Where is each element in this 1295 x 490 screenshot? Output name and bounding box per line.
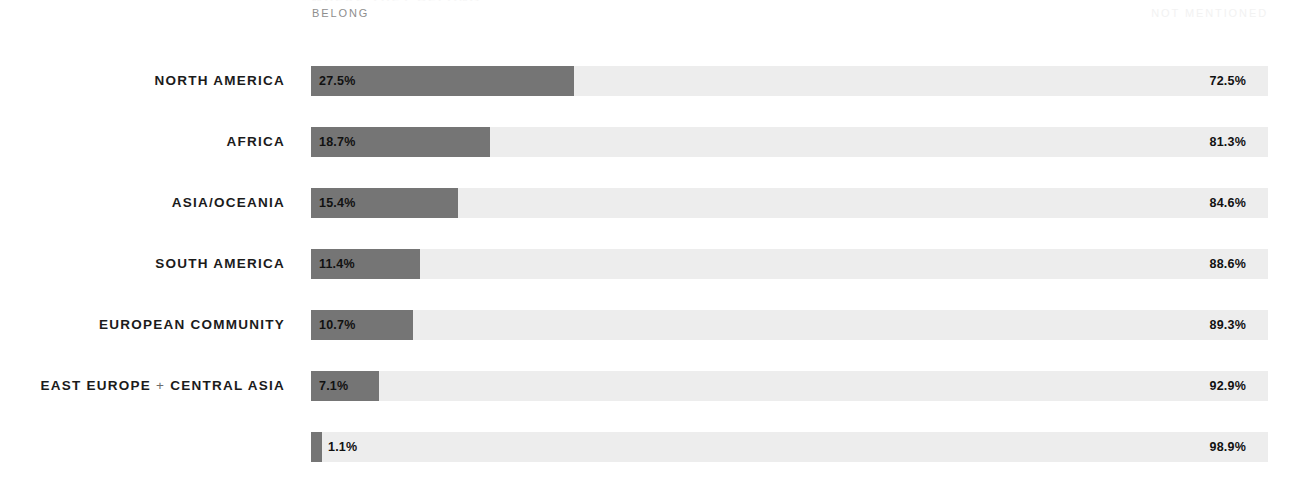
not-mentioned-value-label: 72.5% — [1210, 74, 1246, 88]
belong-value-label: 15.4% — [319, 196, 355, 210]
belong-value-label: 7.1% — [319, 379, 348, 393]
stacked-bar-chart: WHERE THEY BELONG BELONG NOT MENTIONED N… — [0, 0, 1295, 490]
not-mentioned-value-label: 88.6% — [1210, 257, 1246, 271]
not-mentioned-value-label: 81.3% — [1210, 135, 1246, 149]
belong-value-label: 27.5% — [319, 74, 355, 88]
bar-track-not-mentioned: 11.4%88.6% — [311, 249, 1268, 279]
bar-fill-belong — [311, 432, 322, 462]
bar-row: AFRICA18.7%81.3% — [0, 127, 1295, 157]
not-mentioned-value-label: 84.6% — [1210, 196, 1246, 210]
bar-track-not-mentioned: 10.7%89.3% — [311, 310, 1268, 340]
bar-row: SOUTH AMERICA11.4%88.6% — [0, 249, 1295, 279]
bar-row: NORTH AMERICA27.5%72.5% — [0, 66, 1295, 96]
bar-track-not-mentioned: 18.7%81.3% — [311, 127, 1268, 157]
row-category-label: NORTH AMERICA — [0, 73, 285, 89]
chart-rows: NORTH AMERICA27.5%72.5%AFRICA18.7%81.3%A… — [0, 0, 1295, 490]
bar-track-not-mentioned: 1.1%98.9% — [311, 432, 1268, 462]
bar-track-not-mentioned: 7.1%92.9% — [311, 371, 1268, 401]
row-category-label: EAST EUROPE + CENTRAL ASIA — [0, 378, 285, 394]
belong-value-label: 10.7% — [319, 318, 355, 332]
bar-row: 1.1%98.9% — [0, 432, 1295, 462]
belong-value-label: 18.7% — [319, 135, 355, 149]
row-category-label: SOUTH AMERICA — [0, 256, 285, 272]
not-mentioned-value-label: 89.3% — [1210, 318, 1246, 332]
row-category-label: EUROPEAN COMMUNITY — [0, 317, 285, 333]
not-mentioned-value-label: 98.9% — [1210, 440, 1246, 454]
row-category-label: AFRICA — [0, 134, 285, 150]
bar-track-not-mentioned: 27.5%72.5% — [311, 66, 1268, 96]
bar-track-not-mentioned: 15.4%84.6% — [311, 188, 1268, 218]
bar-row: EUROPEAN COMMUNITY10.7%89.3% — [0, 310, 1295, 340]
row-category-label: ASIA/OCEANIA — [0, 195, 285, 211]
belong-value-label: 11.4% — [319, 257, 355, 271]
belong-value-label: 1.1% — [328, 440, 357, 454]
bar-row: ASIA/OCEANIA15.4%84.6% — [0, 188, 1295, 218]
not-mentioned-value-label: 92.9% — [1210, 379, 1246, 393]
bar-row: EAST EUROPE + CENTRAL ASIA7.1%92.9% — [0, 371, 1295, 401]
